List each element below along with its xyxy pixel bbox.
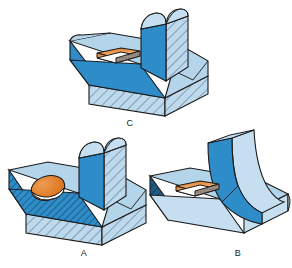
part-a-label: A [76,248,92,258]
figure-stage: C [0,0,292,268]
part-b-base-right-corner-round [288,194,290,211]
part-b-drawing [146,128,292,246]
part-a-drawing [6,136,158,246]
part-c-drawing [62,6,214,118]
part-b-label: B [230,248,246,258]
part-c-label: C [122,118,138,128]
